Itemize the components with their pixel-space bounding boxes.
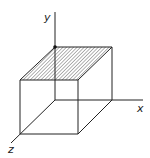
z-axis [11, 100, 55, 143]
box-diagram: y x z [0, 0, 150, 158]
edge-bottom-right [78, 100, 112, 134]
z-axis-label: z [7, 143, 14, 156]
y-axis-label: y [43, 11, 51, 24]
corner-dot [53, 45, 57, 49]
top-face-shaded [20, 47, 112, 80]
x-axis-label: x [136, 102, 144, 115]
